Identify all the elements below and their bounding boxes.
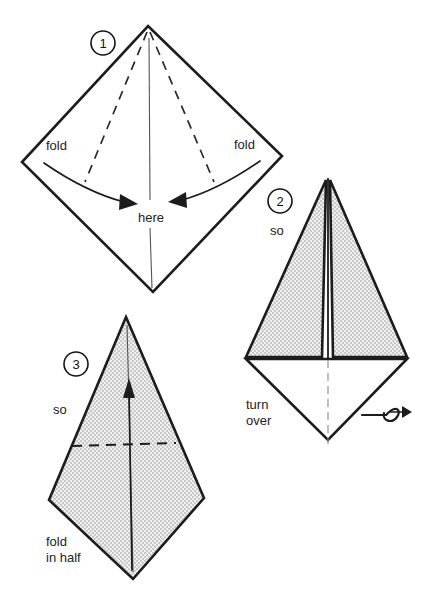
step1-number-label: 1 <box>99 36 106 51</box>
step2-turn-label-line1: turn <box>246 397 268 412</box>
step1-here-label: here <box>138 210 164 225</box>
origami-diagram: 1 fold fold here <box>0 0 425 598</box>
step3-so-label: so <box>53 402 67 417</box>
step3-number-label: 3 <box>72 357 79 372</box>
step1-fold-right-label: fold <box>234 137 255 152</box>
step2-number-label: 2 <box>276 194 283 209</box>
step2-turn-label-line2: over <box>246 413 272 428</box>
step3-fold-label-line1: fold <box>46 534 67 549</box>
origami-instruction-canvas: 1 fold fold here <box>0 0 425 598</box>
step1-fold-left-label: fold <box>46 138 67 153</box>
step2-so-label: so <box>270 223 284 238</box>
step3-fold-label-line2: in half <box>46 550 81 565</box>
